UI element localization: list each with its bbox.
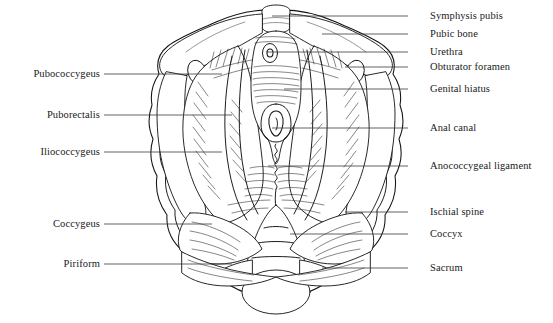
anatomy-figure: PubococcygeusPuborectalisIliococcygeusCo… [0,0,553,323]
label-coccyx: Coccyx [430,229,463,240]
label-anococcygeal-ligament: Anococcygeal ligament [430,161,532,172]
label-coccygeus: Coccygeus [0,219,100,230]
label-urethra: Urethra [430,47,463,58]
label-genital-hiatus: Genital hiatus [430,84,490,95]
label-obturator-foramen: Obturator foramen [430,62,510,73]
label-symphysis-pubis: Symphysis pubis [430,11,503,22]
label-ischial-spine: Ischial spine [430,207,484,218]
label-puborectalis: Puborectalis [0,110,100,121]
label-piriform: Piriform [0,259,100,270]
label-pubic-bone: Pubic bone [430,29,478,40]
label-sacrum: Sacrum [430,263,463,274]
label-iliococcygeus: Iliococcygeus [0,147,100,158]
label-anal-canal: Anal canal [430,123,476,134]
label-pubococcygeus: Pubococcygeus [0,69,100,80]
symphysis-pubis-structure [262,5,290,33]
